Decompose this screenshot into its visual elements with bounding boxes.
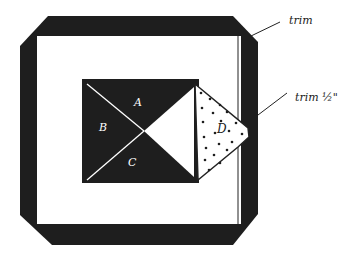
- trim-corner-annotation: trim: [289, 14, 313, 27]
- trim-half-leader: [258, 93, 287, 115]
- trim-half-annotation: trim ½": [295, 91, 338, 104]
- trim-corner-leader: [251, 22, 280, 36]
- piece-label-a: A: [133, 96, 142, 109]
- piece-label-b: B: [98, 121, 107, 134]
- quilt-block-diagram: A B C D trim trim ½": [0, 0, 353, 260]
- piece-label-d: D: [216, 122, 227, 136]
- piece-label-c: C: [128, 156, 137, 169]
